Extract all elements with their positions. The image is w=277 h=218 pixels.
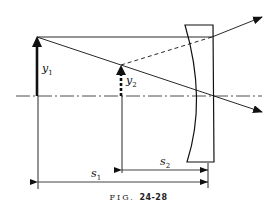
chief-ray	[37, 37, 262, 112]
label-s1: s1	[91, 167, 101, 182]
optics-diagram	[0, 0, 277, 218]
virtual-extension	[121, 37, 212, 65]
label-y1: y1	[42, 62, 53, 77]
figure-caption: FIG. 24-28	[0, 193, 277, 202]
label-y2: y2	[126, 74, 137, 89]
lens	[185, 25, 214, 162]
label-s2: s2	[160, 155, 170, 170]
object-arrow-head	[32, 36, 42, 47]
refracted-ray	[212, 17, 262, 37]
